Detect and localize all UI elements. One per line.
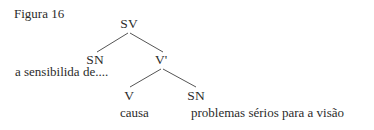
subject-text: a sensibilida de.... [15,65,108,79]
object-text: problemas sérios para a visão [191,106,344,120]
verb-text: causa [120,106,149,120]
edge-vbar-sn [163,69,196,87]
node-v-bar: V' [155,53,167,67]
node-v: V [124,89,134,103]
node-sn-object: SN [187,89,204,103]
node-sv: SV [120,17,137,31]
edge-vbar-v [130,69,161,87]
edge-sv-sn [97,33,128,52]
edge-sv-vbar [130,33,163,52]
